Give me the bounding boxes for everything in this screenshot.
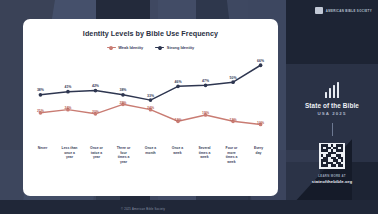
x-axis-category-label: Once amonth [137,146,164,164]
legend-swatch-icon [107,46,116,50]
x-axis-category-label: Severaltimes aweek [191,146,218,164]
point-value-label: 41% [64,85,71,89]
series-point[interactable] [204,83,208,87]
point-value-label: 38% [119,88,126,92]
x-axis-category-label: Once ortwice ayear [83,146,110,164]
point-value-label: 24% [64,106,71,110]
point-value-label: 46% [175,80,182,84]
x-axis-category-label: Four ormoretimes aweek [218,146,245,164]
footer-note: © 2025 American Bible Society [0,208,286,211]
point-value-label: 47% [202,79,209,83]
series-point[interactable] [149,98,153,102]
bar-chart-logo-icon [325,82,340,98]
series-point[interactable] [121,93,125,97]
point-value-label: 66% [257,59,264,63]
chart-x-axis: NeverLess thanonce ayearOnce ortwice aye… [29,146,272,164]
qr-code-icon[interactable] [319,143,345,169]
chart-legend: Weak IdentityStrong Identity [29,45,272,50]
series-point[interactable] [176,84,180,88]
series-point[interactable] [259,63,263,67]
point-value-label: 33% [147,94,154,98]
point-value-label: 42% [92,84,99,88]
point-value-label: 38% [37,88,44,92]
brand-subtitle: USA 2025 [318,111,347,116]
legend-item-weak-identity[interactable]: Weak Identity [107,45,144,50]
point-value-label: 24% [147,106,154,110]
x-axis-category-label: Once aweek [164,146,191,164]
chart-plot-area: 21%24%20%29%24%13%19%13%10%38%41%42%38%3… [29,51,272,143]
point-value-label: 10% [257,121,264,125]
series-point[interactable] [231,80,235,84]
point-value-label: 20% [92,110,99,114]
slide-root: AMERICAN BIBLE SOCIETY Identity Levels b… [0,0,378,214]
x-axis-category-label: Never [29,146,56,164]
chart-title: Identity Levels by Bible Use Frequency [29,29,272,38]
point-value-label: 13% [175,118,182,122]
legend-item-strong-identity[interactable]: Strong Identity [155,45,194,50]
series-point[interactable] [94,89,98,93]
legend-swatch-icon [155,46,164,50]
point-value-label: 50% [230,76,237,80]
x-axis-category-label: Less thanonce ayear [56,146,83,164]
x-axis-category-label: Three orfourtimes ayear [110,146,137,164]
brand-url[interactable]: stateofthebible.org [312,179,353,184]
qr-module [341,164,344,167]
legend-label: Weak Identity [118,45,143,50]
brand-title: State of the Bible [305,102,359,109]
series-point[interactable] [66,90,70,94]
brand-cta-text: LEARN MORE AT [318,174,346,178]
point-value-label: 21% [37,109,44,113]
brand-divider [332,123,333,136]
legend-label: Strong Identity [167,45,194,50]
point-value-label: 19% [202,111,209,115]
series-point[interactable] [39,93,43,97]
point-value-label: 29% [119,101,126,105]
x-axis-category-label: Everyday [245,146,272,164]
point-value-label: 13% [230,118,237,122]
chart-card: Identity Levels by Bible Use Frequency W… [23,19,278,196]
brand-rail: State of the Bible USA 2025 LEARN MORE A… [286,0,378,214]
